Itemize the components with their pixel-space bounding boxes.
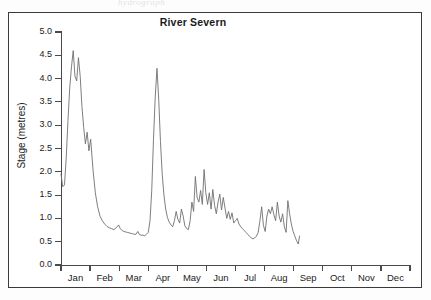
y-tick xyxy=(55,125,61,126)
x-tick xyxy=(119,265,120,271)
y-tick xyxy=(55,171,61,172)
screenshot-page: hydrograph River Severn 0.00.51.01.52.02… xyxy=(0,0,431,300)
x-tick xyxy=(206,265,207,271)
x-tick xyxy=(380,265,381,271)
series-path xyxy=(61,51,299,244)
y-axis-title: Stage (metres) xyxy=(16,81,27,191)
y-tick-label: 5.0 xyxy=(18,26,52,36)
y-tick xyxy=(55,195,61,196)
x-tick-label: Dec xyxy=(375,272,415,283)
y-tick-label: 0.0 xyxy=(18,259,52,269)
y-tick xyxy=(55,55,61,56)
x-tick xyxy=(148,265,149,271)
y-tick xyxy=(55,101,61,102)
x-tick xyxy=(322,265,323,271)
x-tick xyxy=(89,265,90,271)
y-tick-label: 4.5 xyxy=(18,49,52,59)
x-tick xyxy=(264,265,265,271)
y-tick-label: 1.0 xyxy=(18,212,52,222)
x-tick xyxy=(60,265,61,271)
y-tick-label: 1.5 xyxy=(18,189,52,199)
y-tick xyxy=(55,31,61,32)
x-tick xyxy=(351,265,352,271)
y-tick xyxy=(55,148,61,149)
y-tick xyxy=(55,241,61,242)
plot-area: 0.00.51.01.52.02.53.03.54.04.55.0 JanFeb… xyxy=(0,0,431,300)
y-tick xyxy=(55,218,61,219)
x-tick xyxy=(293,265,294,271)
y-tick xyxy=(55,78,61,79)
data-series-line xyxy=(0,0,431,300)
y-axis-line xyxy=(61,31,62,266)
x-tick xyxy=(177,265,178,271)
x-tick xyxy=(235,265,236,271)
x-tick xyxy=(409,265,410,271)
y-tick-label: 0.5 xyxy=(18,236,52,246)
